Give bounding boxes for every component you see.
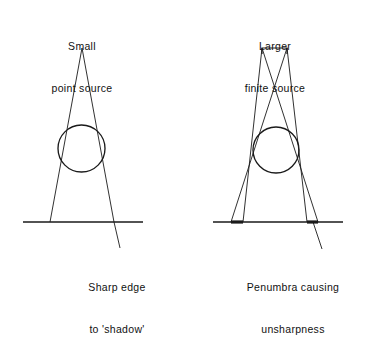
left-caption-pointer (114, 222, 120, 248)
right-caption-pointer (313, 222, 322, 249)
label-penumbra-causing-unsharpness: Penumbra causing unsharpness (228, 252, 358, 339)
label-small-point-source-line1: Small (22, 39, 142, 53)
label-larger-finite-source-line2: finite source (215, 81, 335, 95)
label-sharp-edge-line1: Sharp edge (62, 280, 172, 294)
label-penumbra-line1: Penumbra causing (228, 280, 358, 294)
label-larger-finite-source: Larger finite source (215, 11, 335, 123)
left-object-circle (58, 125, 105, 172)
label-larger-finite-source-line1: Larger (215, 39, 335, 53)
label-small-point-source: Small point source (22, 11, 142, 123)
right-object-circle (253, 127, 299, 173)
label-sharp-edge-line2: to 'shadow' (62, 322, 172, 336)
label-sharp-edge-to-shadow: Sharp edge to 'shadow' (62, 252, 172, 339)
label-small-point-source-line2: point source (22, 81, 142, 95)
label-penumbra-line2: unsharpness (228, 322, 358, 336)
